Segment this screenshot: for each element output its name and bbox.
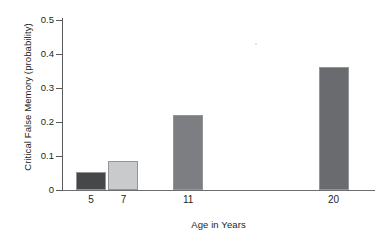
y-tick-label: 0.3 <box>24 83 54 93</box>
y-tick-label: 0.4 <box>24 49 54 59</box>
x-axis-title: Age in Years <box>62 219 375 230</box>
stray-speck <box>255 43 257 45</box>
y-tick-label-text: 0.5 <box>28 15 54 25</box>
x-tick-label: 20 <box>314 194 354 206</box>
bar-chart: Critical False Memory (probability) 00.1… <box>0 0 382 244</box>
y-tick-label-text: 0.1 <box>28 151 54 161</box>
bar <box>173 115 203 190</box>
x-axis-line <box>62 190 375 191</box>
y-tick-label: 0.1 <box>24 151 54 161</box>
y-tick-label-text: 0 <box>28 185 54 195</box>
bar <box>76 172 106 190</box>
y-tick-label: 0.5 <box>24 15 54 25</box>
bar <box>108 161 138 190</box>
y-tick-label-text: 0.3 <box>28 83 54 93</box>
y-axis-title: Critical False Memory (probability) <box>18 2 38 192</box>
y-tick-label-text: 0.2 <box>28 117 54 127</box>
y-tick-label: 0 <box>24 185 54 195</box>
x-tick-label: 11 <box>168 194 208 206</box>
x-tick-label: 7 <box>103 194 143 206</box>
plot-area <box>62 20 374 190</box>
y-tick-label-text: 0.4 <box>28 49 54 59</box>
y-tick-label: 0.2 <box>24 117 54 127</box>
bar <box>319 67 349 190</box>
